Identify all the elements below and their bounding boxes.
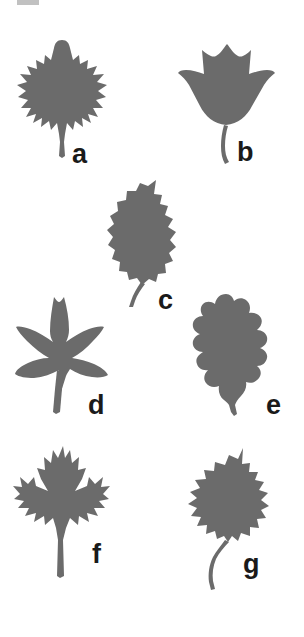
leaf-shape-b-icon: [176, 40, 278, 166]
leaf-figure-b: [176, 40, 278, 166]
leaf-label-d: d: [88, 392, 105, 419]
leaf-figure-a: [14, 38, 110, 160]
top-crop-artifact: [17, 0, 39, 5]
leaf-label-b: b: [237, 139, 254, 166]
leaf-shape-e-icon: [186, 292, 270, 418]
leaf-figure-e: [186, 292, 270, 418]
leaf-shape-a-icon: [14, 38, 110, 160]
figure-plate: a b c d e f: [0, 0, 304, 637]
leaf-label-f: f: [92, 541, 101, 568]
leaf-label-e: e: [266, 392, 281, 419]
leaf-label-a: a: [72, 141, 87, 168]
leaf-label-c: c: [158, 287, 173, 314]
leaf-label-g: g: [243, 551, 260, 578]
